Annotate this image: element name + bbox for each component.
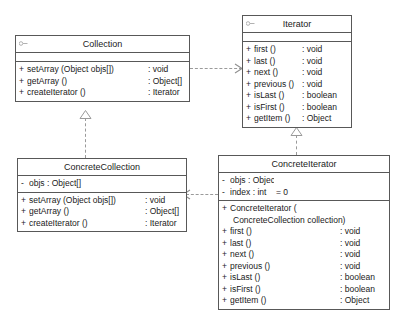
class-box-collection[interactable]: Collection + setArray (Object objs[]) : … [15, 35, 190, 102]
operation-row[interactable]: + setArray (Object objs[]) : void [16, 64, 189, 76]
attribute-row[interactable]: - objs : Object[] [219, 175, 389, 187]
operation-signature: getArray () [27, 76, 144, 88]
operation-signature: isLast () [230, 272, 336, 284]
operation-row[interactable]: + isLast () : boolean [243, 90, 351, 102]
operation-row[interactable]: + createIterator () : Iterator [18, 218, 186, 230]
operation-row[interactable]: + last () : void [243, 56, 351, 68]
class-header-collection: Collection [16, 36, 189, 53]
attributes-compartment-iterator [243, 33, 351, 42]
class-box-concrete-iterator[interactable]: ConcreteIterator - objs : Object[] - ind… [218, 155, 390, 310]
attribute-signature: objs : Object[] [230, 175, 274, 187]
operation-signature: getItem () [230, 295, 336, 307]
operation-row[interactable]: + first () : void [243, 44, 351, 56]
operation-row[interactable]: + setArray (Object objs[]) : void [18, 195, 186, 207]
operation-row[interactable]: + first () : void [219, 226, 389, 238]
operation-signature: isFirst () [254, 102, 298, 114]
operation-signature: setArray (Object objs[]) [29, 195, 141, 207]
class-header-concrete-iterator: ConcreteIterator [219, 156, 389, 173]
operations-compartment-concrete-collection: + setArray (Object objs[]) : void + getA… [18, 193, 186, 232]
operation-return-type: : void [298, 67, 322, 79]
operation-row[interactable]: + isLast () : boolean [219, 272, 389, 284]
visibility-marker: + [21, 195, 29, 207]
operation-signature: first () [254, 44, 298, 56]
constructor-row[interactable]: + ConcreteIterator ( [219, 203, 389, 215]
visibility-marker: + [222, 261, 230, 273]
visibility-marker: + [222, 226, 230, 238]
uml-class-diagram: Collection + setArray (Object objs[]) : … [0, 0, 412, 319]
attribute-default-value: = 0 [274, 187, 288, 199]
visibility-marker: + [246, 56, 254, 68]
constructor-signature-line2: ConcreteCollection collection) [219, 215, 389, 227]
attribute-signature: index : int [230, 187, 274, 199]
operation-return-type: : Object[] [141, 206, 183, 218]
realization-line-concreteiterator-to-iterator [296, 135, 297, 155]
hollow-triangle-iterator [290, 127, 303, 136]
operation-return-type: : Object[] [144, 76, 186, 88]
class-box-concrete-collection[interactable]: ConcreteCollection - objs : Object[] + s… [17, 158, 187, 232]
visibility-marker: - [222, 175, 230, 187]
operation-signature: last () [230, 238, 336, 250]
visibility-marker: + [246, 90, 254, 102]
visibility-marker: + [19, 64, 27, 76]
operation-row[interactable]: + next () : void [243, 67, 351, 79]
operation-return-type: : void [336, 261, 386, 273]
operation-signature: previous () [254, 79, 298, 91]
operation-row[interactable]: + previous () : void [219, 261, 389, 273]
class-name-label: Iterator [283, 19, 312, 29]
operation-row[interactable]: + getItem () : Object [219, 295, 389, 307]
operation-return-type: : void [298, 79, 322, 91]
operation-return-type: : Iterator [144, 87, 186, 99]
class-header-iterator: Iterator [243, 16, 351, 33]
visibility-marker: + [19, 87, 27, 99]
operation-return-type: : void [144, 64, 186, 76]
attribute-row[interactable]: - index : int = 0 [219, 187, 389, 199]
class-name-label: ConcreteIterator [271, 159, 336, 169]
operation-return-type: : boolean [336, 284, 386, 296]
class-name-label: ConcreteCollection [64, 162, 140, 172]
operation-row[interactable]: + createIterator () : Iterator [16, 87, 189, 99]
operation-return-type: : boolean [336, 272, 386, 284]
operation-return-type: : Object [298, 113, 331, 125]
operation-row[interactable]: + getItem () : Object [243, 113, 351, 125]
operation-return-type: : boolean [298, 102, 337, 114]
visibility-marker: + [222, 238, 230, 250]
visibility-marker: + [246, 79, 254, 91]
visibility-marker: + [21, 206, 29, 218]
operation-signature: getArray () [29, 206, 141, 218]
visibility-marker: - [21, 178, 29, 190]
operation-signature: createIterator () [29, 218, 141, 230]
operation-row[interactable]: + next () : void [219, 249, 389, 261]
visibility-marker: + [222, 272, 230, 284]
attribute-row[interactable]: - objs : Object[] [18, 178, 186, 190]
visibility-marker: + [246, 67, 254, 79]
operation-row[interactable]: + getArray () : Object[] [18, 206, 186, 218]
realization-line-concretecollection-to-collection [85, 118, 86, 158]
interface-icon [19, 40, 28, 47]
operation-return-type: : void [336, 249, 386, 261]
operation-signature: isLast () [254, 90, 298, 102]
operation-row[interactable]: + isFirst () : boolean [219, 284, 389, 296]
class-name-label: Collection [83, 39, 123, 49]
visibility-marker: - [222, 187, 230, 199]
constructor-signature-line1: ConcreteIterator ( [230, 203, 386, 215]
operation-signature: next () [230, 249, 336, 261]
operation-return-type: : boolean [298, 90, 337, 102]
operation-signature: isFirst () [230, 284, 336, 296]
operation-row[interactable]: + last () : void [219, 238, 389, 250]
visibility-marker: + [222, 203, 230, 215]
visibility-marker: + [246, 44, 254, 56]
operation-signature: previous () [230, 261, 336, 273]
class-box-iterator[interactable]: Iterator + first () : void + last () : v… [242, 15, 352, 128]
hollow-triangle-collection [79, 110, 92, 119]
visibility-marker: + [21, 218, 29, 230]
operation-signature: last () [254, 56, 298, 68]
visibility-marker: + [222, 284, 230, 296]
visibility-marker: + [222, 295, 230, 307]
operation-row[interactable]: + previous () : void [243, 79, 351, 91]
operations-compartment-concrete-iterator: + ConcreteIterator ( ConcreteCollection … [219, 201, 389, 309]
operation-row[interactable]: + isFirst () : boolean [243, 102, 351, 114]
visibility-marker: + [19, 76, 27, 88]
operation-return-type: : void [336, 238, 386, 250]
operation-row[interactable]: + getArray () : Object[] [16, 76, 189, 88]
operation-signature: next () [254, 67, 298, 79]
